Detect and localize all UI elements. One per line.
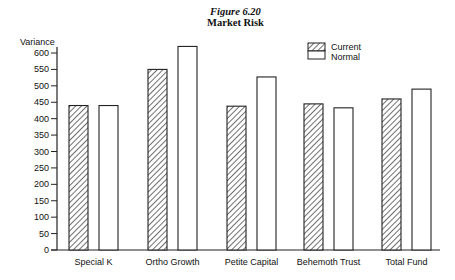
y-tick-label: 600 — [34, 48, 49, 58]
y-tick-label: 50 — [39, 229, 49, 239]
y-tick-label: 300 — [34, 147, 49, 157]
y-axis-label: Variance — [20, 37, 55, 47]
bar-normal — [334, 108, 353, 250]
legend-swatch-current — [308, 43, 325, 51]
bar-normal — [412, 89, 431, 250]
bar-normal — [99, 106, 118, 250]
y-tick-label: 150 — [34, 196, 49, 206]
legend-label-current: Current — [331, 42, 362, 52]
y-tick-label: 350 — [34, 130, 49, 140]
y-tick-label: 500 — [34, 81, 49, 91]
legend-label-normal: Normal — [331, 52, 360, 62]
x-tick-label: Petite Capital — [225, 257, 279, 267]
legend-swatch-normal — [308, 51, 325, 59]
bar-current — [69, 106, 88, 250]
x-tick-label: Special K — [74, 257, 112, 267]
y-tick-label: 250 — [34, 163, 49, 173]
y-tick-label: 200 — [34, 179, 49, 189]
y-tick-label: 450 — [34, 97, 49, 107]
bar-current — [382, 99, 401, 250]
x-axis-labels: Special KOrtho GrowthPetite CapitalBehem… — [74, 257, 427, 267]
bar-chart: Variance 0501001502002503003504004505005… — [0, 0, 455, 280]
x-tick-label: Ortho Growth — [145, 257, 199, 267]
x-tick-label: Behemoth Trust — [297, 257, 361, 267]
y-tick-label: 550 — [34, 64, 49, 74]
bar-current — [304, 104, 323, 250]
bar-normal — [257, 77, 276, 250]
legend: Current Normal — [308, 42, 362, 62]
bar-current — [148, 69, 167, 250]
bars — [69, 46, 431, 250]
y-tick-label: 100 — [34, 212, 49, 222]
x-tick-label: Total Fund — [385, 257, 427, 267]
bar-normal — [178, 46, 197, 250]
y-tick-label: 400 — [34, 114, 49, 124]
bar-current — [227, 106, 246, 250]
y-tick-label: 0 — [44, 245, 49, 255]
